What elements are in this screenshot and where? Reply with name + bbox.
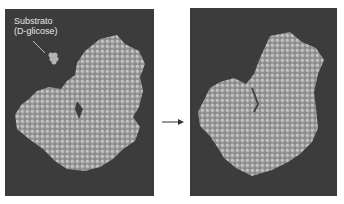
substrate-label: Substrato (D-glicose)	[14, 16, 58, 36]
enzyme-substrate-panel-after	[190, 8, 337, 196]
enzyme-substrate-panel-before: Substrato (D-glicose)	[5, 9, 154, 196]
enzyme-closed-model	[190, 8, 337, 196]
substrate-label-line2: (D-glicose)	[14, 26, 58, 36]
substrate-label-line1: Substrato	[14, 16, 58, 26]
label-pointer-line	[33, 41, 45, 53]
glucose-molecule	[49, 53, 59, 65]
right-arrow-icon	[162, 118, 184, 126]
enzyme-space-filling-model	[5, 9, 154, 196]
